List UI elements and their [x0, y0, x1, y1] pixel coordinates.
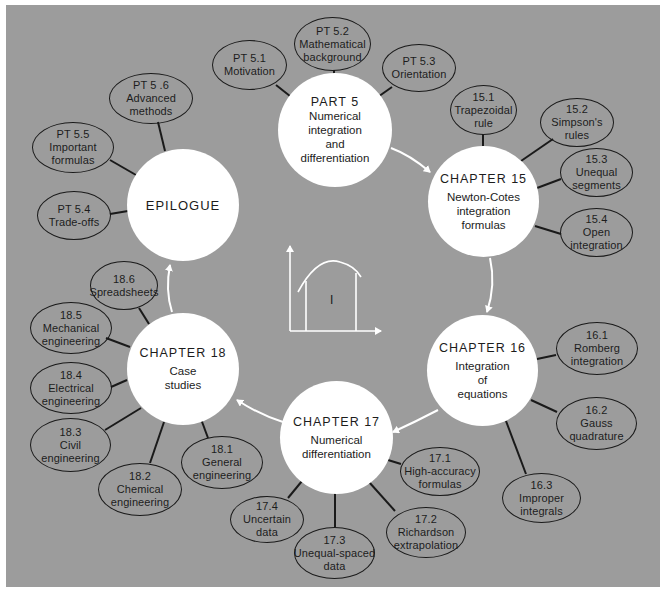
part5-roadmap-diagram: I PART 5 Numerical integration and diffe… [0, 0, 667, 595]
arrow-part5-to-ch15 [391, 148, 430, 172]
integral-label: I [330, 293, 333, 307]
hub-chapter-18[interactable]: CHAPTER 18 Case studies [127, 313, 239, 425]
hub-title: PART 5 [311, 95, 359, 109]
hub-chapter-16[interactable]: CHAPTER 16 Integration of equations [427, 315, 538, 426]
hub-part5[interactable]: PART 5 Numerical integration and differe… [278, 73, 392, 187]
hub-chapter-17[interactable]: CHAPTER 17 Numerical differentiation [280, 381, 393, 494]
arrow-ch16-to-ch17 [393, 410, 438, 432]
section-18-1[interactable]: 18.1 General engineering [181, 436, 263, 489]
section-16-1[interactable]: 16.1 Romberg integration [556, 322, 638, 375]
section-15-3[interactable]: 15.3 Unequal segments [560, 148, 633, 197]
section-pt5-6[interactable]: PT 5 .6 Advanced methods [109, 73, 193, 124]
section-17-1[interactable]: 17.1 High-accuracy formulas [400, 447, 480, 496]
section-15-4[interactable]: 15.4 Open integration [560, 208, 633, 257]
section-17-2[interactable]: 17.2 Richardson extrapolation [386, 507, 466, 558]
section-17-3[interactable]: 17.3 Unequal-spaced data [294, 527, 375, 579]
section-pt5-2[interactable]: PT 5.2 Mathematical background [294, 17, 371, 71]
section-18-3[interactable]: 18.3 Civil engineering [30, 418, 111, 472]
section-pt5-1[interactable]: PT 5.1 Motivation [212, 40, 287, 90]
section-18-5[interactable]: 18.5 Mechanical engineering [30, 302, 112, 354]
section-18-4[interactable]: 18.4 Electrical engineering [30, 362, 112, 414]
arrow-ch15-to-ch16 [487, 258, 492, 312]
section-pt5-3[interactable]: PT 5.3 Orientation [382, 44, 456, 92]
arrow-ch18-to-epilogue [168, 265, 172, 312]
section-16-2[interactable]: 16.2 Gauss quadrature [556, 397, 637, 450]
section-pt5-4[interactable]: PT 5.4 Trade-offs [37, 191, 111, 240]
section-18-6[interactable]: 18.6 Spreadsheets [90, 261, 158, 310]
hub-chapter-15[interactable]: CHAPTER 15 Newton-Cotes integration form… [428, 146, 539, 257]
section-17-4[interactable]: 17.4 Uncertain data [230, 496, 304, 543]
integral-graph-icon [290, 246, 381, 331]
arrow-ch17-to-ch18 [237, 400, 283, 422]
hub-epilogue[interactable]: EPILOGUE [127, 149, 239, 261]
section-15-1[interactable]: 15.1 Trapezoidal rule [450, 85, 517, 135]
section-pt5-5[interactable]: PT 5.5 Important formulas [32, 122, 114, 173]
section-18-2[interactable]: 18.2 Chemical engineering [98, 463, 182, 516]
section-15-2[interactable]: 15.2 Simpson's rules [540, 98, 614, 147]
section-16-3[interactable]: 16.3 Improper integrals [502, 473, 581, 523]
